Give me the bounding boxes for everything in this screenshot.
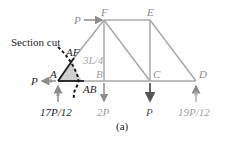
node-label-D: D xyxy=(198,68,207,80)
load-label-C: P xyxy=(145,106,153,118)
load-label-B: 2P xyxy=(97,106,110,118)
node-label-A: A xyxy=(49,68,57,80)
node-label-E: E xyxy=(146,6,154,18)
member-force-label-AF: AF xyxy=(65,46,80,58)
dimension-label: 3L/4 xyxy=(82,54,104,66)
load-label-F: P xyxy=(73,14,81,26)
truss-members xyxy=(71,20,196,81)
truss-diagram: F E A B C D AF AB 3L/4 Section cut P P 2… xyxy=(0,0,225,141)
reaction-arrow-D xyxy=(194,86,198,102)
figure-caption: (a) xyxy=(116,120,129,133)
reaction-label-A: 17P/12 xyxy=(40,106,72,118)
node-label-C: C xyxy=(153,68,161,80)
reaction-label-D: 19P/12 xyxy=(178,106,210,118)
section-cut-label: Section cut xyxy=(11,36,60,48)
member-force-label-AB: AB xyxy=(82,83,97,95)
node-label-B: B xyxy=(96,68,103,80)
load-label-A: P xyxy=(30,75,38,87)
reaction-arrow-A xyxy=(56,86,60,102)
member-FC xyxy=(104,20,150,81)
node-label-F: F xyxy=(100,6,108,18)
